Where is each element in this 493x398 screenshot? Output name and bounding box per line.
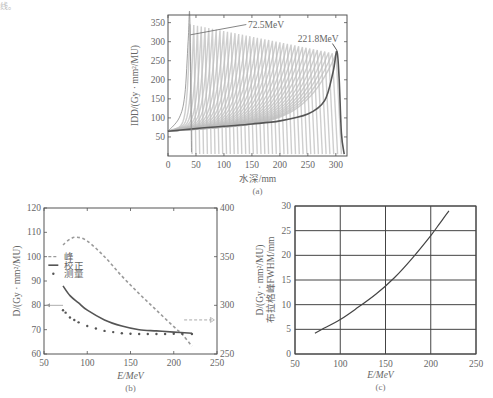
chart-b: 5010015020025060708090100110120250300350… [12,203,235,393]
y-tick-label: 350 [151,18,166,28]
annotation-72-5: 72.5MeV [248,20,284,30]
y2-tick-label: 350 [220,252,235,262]
y-tick-label: 100 [27,252,42,262]
y-tick-label: 70 [32,325,42,335]
y-tick-label: 0 [286,349,291,359]
x-tick-label: 200 [273,160,288,170]
caption-c: (c) [376,382,386,392]
y-tick-label: 5 [286,324,291,334]
x-tick-label: 100 [80,358,95,368]
y2-tick-label: 400 [220,203,235,213]
chart-a: 72.5MeV221.8MeV0501001502002503005010015… [130,11,347,196]
x-tick-label: 200 [167,358,182,368]
x-tick-label: 50 [191,160,201,170]
x-tick-label: 150 [378,359,393,369]
x-tick-label: 50 [39,358,49,368]
x-tick-label: 150 [123,358,138,368]
chart-c: 50100150200250051015202530E/MeVD/(Gy · m… [255,201,483,392]
x-axis-label: 水深/mm [239,173,277,184]
y-tick-label: 250 [151,56,166,66]
y-tick-label: 25 [282,226,292,236]
y-tick-label: 300 [151,37,166,47]
legend: 峰校正测量 [48,252,84,279]
x-tick-label: 250 [210,358,225,368]
y-tick-label: 90 [32,276,42,286]
x-axis-label: E/MeV [116,371,145,381]
y-tick-label: 100 [151,113,166,123]
series-corrected [63,286,192,333]
series-peak [63,237,192,346]
y-tick-label: 20 [282,250,292,260]
x-tick-label: 150 [245,160,260,170]
bragg-curve-family [168,24,341,154]
x-tick-label: 100 [333,359,348,369]
y-tick-label: 50 [156,132,166,142]
y-tick-label: 15 [282,275,292,285]
y-axis-label-line1: D/(Gy · mm²/MU) [255,245,266,316]
x-tick-label: 100 [217,160,232,170]
legend-entry: 测量 [64,269,84,279]
y-axis-label: IDD/(Gy · mm²/MU) [130,45,141,126]
x-tick-label: 50 [290,359,300,369]
y-tick-label: 120 [27,203,42,213]
x-tick-label: 200 [424,359,439,369]
y-tick-label: 80 [32,300,42,310]
y-tick-label: 150 [151,94,166,104]
caption-b: (b) [125,383,136,393]
x-tick-label: 250 [469,359,484,369]
figure-canvas: 72.5MeV221.8MeV0501001502002503005010015… [0,0,493,398]
y-tick-label: 60 [32,349,42,359]
y2-tick-label: 250 [220,349,235,359]
y-axis-label-line2: 布拉格峰FWHM/mm [265,236,276,324]
y-tick-label: 110 [27,227,41,237]
y-tick-label: 30 [282,201,292,211]
x-tick-label: 300 [329,160,344,170]
y-tick-label: 10 [282,300,292,310]
x-axis-label: E/MeV [366,370,395,380]
y-axis-label: D/(Gy · mm²/MU) [12,246,23,317]
series-fwhm [315,211,449,333]
y2-tick-label: 300 [220,300,235,310]
x-tick-label: 250 [301,160,316,170]
x-tick-label: 0 [166,160,171,170]
caption-a: (a) [253,186,263,196]
y-tick-label: 200 [151,75,166,85]
plot-frame [44,208,217,354]
annotation-221-8: 221.8MeV [298,34,339,44]
